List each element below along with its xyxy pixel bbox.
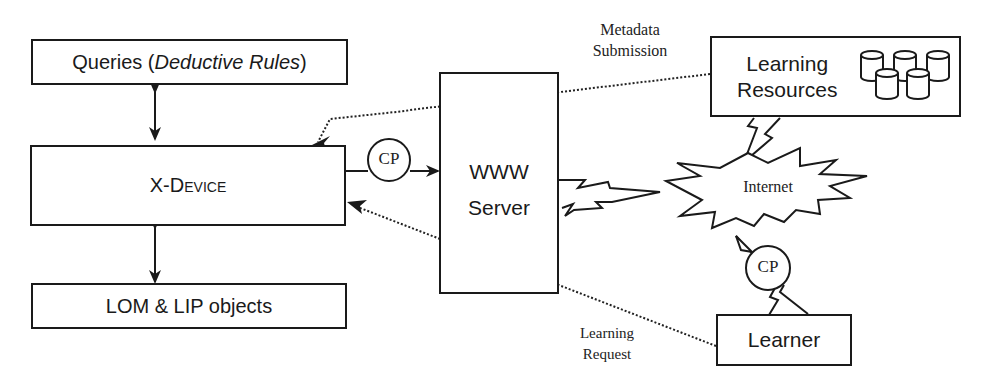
www-label: WWW <box>468 154 530 190</box>
learning-resources-line1: Learning <box>737 51 837 76</box>
cp-label-server: CP <box>369 149 409 169</box>
queries-box: Queries (Deductive Rules) <box>31 39 348 85</box>
queries-label: Queries (Deductive Rules) <box>72 51 307 74</box>
internet-label: Internet <box>728 178 808 196</box>
learning-request-label: Learning Request <box>562 323 652 365</box>
lom-lip-label: LOM & LIP objects <box>106 295 272 318</box>
www-server-box: WWW Server <box>439 72 559 294</box>
server-label: Server <box>468 190 530 226</box>
cp-label-learner: CP <box>748 257 788 277</box>
xdevice-box: X-Device <box>30 145 346 226</box>
metadata-submission-label: Metadata Submission <box>580 20 680 62</box>
lightning-server-internet <box>559 180 660 216</box>
xdevice-label: X-Device <box>150 174 226 197</box>
learner-label: Learner <box>748 328 820 352</box>
learning-resources-line2: Resources <box>737 77 837 102</box>
lom-lip-box: LOM & LIP objects <box>31 283 347 329</box>
learning-resources-box: Learning Resources <box>710 36 961 117</box>
learner-box: Learner <box>716 314 852 366</box>
